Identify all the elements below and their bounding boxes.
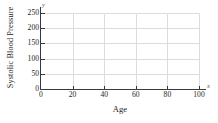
gridline-vertical (199, 13, 200, 89)
gridline-horizontal (41, 28, 199, 29)
y-axis-line (40, 7, 41, 90)
y-axis-tick-label: 100 (28, 55, 39, 63)
y-axis-tick (41, 13, 45, 14)
plot-area (41, 13, 199, 89)
gridline-horizontal (41, 13, 199, 14)
x-axis-tick-label: 0 (30, 91, 52, 99)
x-axis-line (40, 89, 206, 90)
x-axis-tick-label: 80 (156, 91, 178, 99)
y-axis-tick-label: 250 (28, 9, 39, 17)
y-axis-tick (41, 43, 45, 44)
x-axis-tick-label: 60 (125, 91, 147, 99)
chart-figure: Systolic Blood Pressure y x 050100150200… (0, 0, 218, 123)
y-axis-tick (41, 59, 45, 60)
y-axis-tick (41, 74, 45, 75)
gridline-horizontal (41, 74, 199, 75)
gridline-vertical (167, 13, 168, 89)
y-axis-tick-label: 150 (28, 39, 39, 47)
gridline-horizontal (41, 59, 199, 60)
gridline-horizontal (41, 43, 199, 44)
x-axis-tick-label: 20 (62, 91, 84, 99)
y-axis-tick-label: 200 (28, 24, 39, 32)
gridline-vertical (73, 13, 74, 89)
y-axis-tick-label: 50 (31, 70, 39, 78)
x-axis-title: Age (41, 104, 199, 114)
x-axis-tick-label: 40 (93, 91, 115, 99)
gridline-vertical (104, 13, 105, 89)
y-axis-tick (41, 28, 45, 29)
x-axis-end-marker: x (207, 82, 210, 89)
gridline-vertical (136, 13, 137, 89)
x-axis-tick-label: 100 (188, 91, 210, 99)
y-axis-title: Systolic Blood Pressure (6, 0, 15, 96)
y-axis-end-marker: y (42, 1, 45, 8)
